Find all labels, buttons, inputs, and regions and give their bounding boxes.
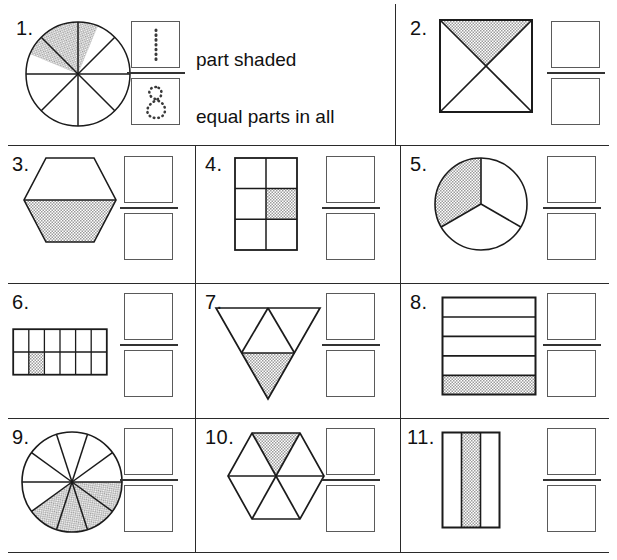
fraction-bar-1 <box>127 72 185 74</box>
answer-numerator-box-1[interactable] <box>131 21 180 68</box>
answer-fraction-2 <box>551 21 611 125</box>
traced-numeral-one <box>132 22 179 67</box>
figure-circle-3-sectors <box>431 154 531 258</box>
problem-1: 1. <box>0 0 395 145</box>
figure-rect-grid-2x6 <box>12 328 108 380</box>
answer-numerator-box-11[interactable] <box>547 428 596 475</box>
fraction-bar-8 <box>543 344 601 346</box>
figure-hexagon-6-triangles <box>224 430 328 526</box>
problem-6: 6. <box>0 284 195 418</box>
answer-fraction-10 <box>326 428 386 532</box>
legend-numerator-text: part shaded <box>196 49 296 71</box>
answer-numerator-box-10[interactable] <box>326 428 375 475</box>
answer-fraction-4 <box>326 156 386 260</box>
shaded-strip <box>462 433 482 528</box>
answer-denominator-box-11[interactable] <box>547 485 596 532</box>
answer-numerator-box-3[interactable] <box>124 156 173 203</box>
answer-fraction-9 <box>124 428 184 532</box>
fraction-bar-7 <box>322 344 380 346</box>
fraction-bar-6 <box>120 344 178 346</box>
fraction-bar-3 <box>120 207 178 209</box>
shaded-half <box>24 200 116 242</box>
fraction-bar-11 <box>543 479 601 481</box>
answer-fraction-6 <box>124 293 184 397</box>
problem-3: 3. <box>0 146 195 283</box>
figure-rect-grid-2x3 <box>234 157 298 255</box>
fraction-bar-2 <box>547 72 605 74</box>
shaded-triangle <box>440 20 532 66</box>
answer-fraction-3 <box>124 156 184 260</box>
problem-7: 7. <box>196 284 400 418</box>
problem-11: 11. <box>401 419 617 552</box>
figure-circle-8-sectors <box>22 18 134 134</box>
shaded-triangle <box>242 353 295 399</box>
shaded-sector <box>32 458 134 552</box>
fraction-bar-9 <box>120 479 178 481</box>
answer-denominator-box-3[interactable] <box>124 213 173 260</box>
answer-numerator-box-4[interactable] <box>326 156 375 203</box>
answer-numerator-box-5[interactable] <box>547 156 596 203</box>
answer-numerator-box-9[interactable] <box>124 428 173 475</box>
figure-rect-5-horizontal-strips <box>441 296 537 400</box>
problem-2: 2. <box>396 0 617 145</box>
fraction-bar-4 <box>322 207 380 209</box>
answer-fraction-8 <box>547 293 607 397</box>
figure-rect-3-vertical-strips <box>441 431 501 533</box>
answer-fraction-5 <box>547 156 607 260</box>
answer-denominator-box-9[interactable] <box>124 485 173 532</box>
answer-denominator-box-2[interactable] <box>551 78 600 125</box>
fraction-bar-10 <box>322 479 380 481</box>
problem-10: 10. <box>196 419 400 552</box>
problem-number-2: 2. <box>410 18 428 38</box>
figure-circle-10-sectors <box>20 430 124 538</box>
problem-number-8: 8. <box>410 292 428 312</box>
problem-number-11: 11. <box>407 427 435 447</box>
answer-denominator-box-4[interactable] <box>326 213 375 260</box>
answer-numerator-box-8[interactable] <box>547 293 596 340</box>
figure-square-4-triangles <box>438 18 534 118</box>
problem-9: 9. <box>0 419 195 552</box>
shaded-strip <box>443 376 536 395</box>
answer-denominator-box-10[interactable] <box>326 485 375 532</box>
answer-fraction-11 <box>547 428 607 532</box>
figure-hexagon-2-halves <box>20 154 120 250</box>
legend-denominator-text: equal parts in all <box>196 106 334 128</box>
answer-denominator-box-7[interactable] <box>326 350 375 397</box>
problem-4: 4. <box>196 146 400 283</box>
problem-number-4: 4. <box>205 154 223 174</box>
answer-fraction-7 <box>326 293 386 397</box>
answer-denominator-box-1[interactable] <box>131 78 180 125</box>
shaded-triangle <box>252 433 300 476</box>
shaded-cell <box>29 352 44 375</box>
problem-5: 5. <box>401 146 617 283</box>
worksheet-sheet: 1. <box>0 0 617 560</box>
bottom-border <box>8 552 609 553</box>
answer-numerator-box-2[interactable] <box>551 21 600 68</box>
figure-triangle-4-parts <box>214 306 322 406</box>
problem-number-6: 6. <box>12 292 30 312</box>
fraction-bar-5 <box>543 207 601 209</box>
traced-numeral-eight <box>132 79 179 124</box>
answer-denominator-box-8[interactable] <box>547 350 596 397</box>
answer-fraction-1 <box>131 21 191 125</box>
answer-numerator-box-7[interactable] <box>326 293 375 340</box>
answer-numerator-box-6[interactable] <box>124 293 173 340</box>
problem-8: 8. <box>401 284 617 418</box>
problem-number-5: 5. <box>410 154 428 174</box>
answer-denominator-box-6[interactable] <box>124 350 173 397</box>
answer-denominator-box-5[interactable] <box>547 213 596 260</box>
shaded-cell <box>266 188 297 219</box>
